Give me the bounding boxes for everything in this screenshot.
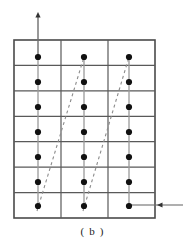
lattice-dot-1 <box>35 79 41 85</box>
lattice-diagram-svg <box>0 0 185 251</box>
lattice-dot-12 <box>81 179 87 185</box>
lattice-dot-17 <box>126 129 132 135</box>
lattice-dot-14 <box>126 54 132 60</box>
lattice-dot-9 <box>81 104 87 110</box>
lattice-dot-11 <box>81 154 87 160</box>
figure-container: ( b ) <box>0 0 185 251</box>
figure-caption: ( b ) <box>0 224 185 238</box>
lattice-dot-16 <box>126 104 132 110</box>
lattice-dot-4 <box>35 154 41 160</box>
lattice-dot-6 <box>35 203 41 209</box>
lattice-dot-0 <box>35 54 41 60</box>
lattice-dot-8 <box>81 79 87 85</box>
lattice-dot-15 <box>126 79 132 85</box>
lattice-dot-19 <box>126 179 132 185</box>
lattice-dot-5 <box>35 179 41 185</box>
lattice-dot-10 <box>81 129 87 135</box>
lattice-dot-3 <box>35 129 41 135</box>
lattice-dot-20 <box>126 203 132 209</box>
lattice-dot-13 <box>81 203 87 209</box>
vertical-arrow-head <box>35 12 40 18</box>
lattice-dot-2 <box>35 104 41 110</box>
lattice-dot-18 <box>126 154 132 160</box>
horizontal-arrow-head <box>157 202 163 207</box>
lattice-dot-7 <box>81 54 87 60</box>
